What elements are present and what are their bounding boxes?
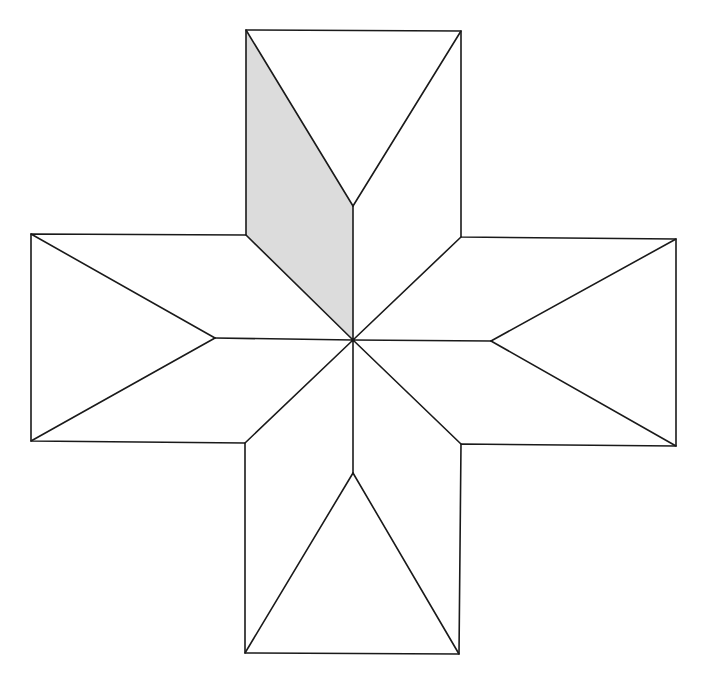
right-square-top-diagonal — [491, 239, 676, 341]
bottom-square-left-diagonal — [245, 473, 353, 653]
center-point — [351, 338, 355, 342]
diagonal-spoke-bottom-right — [353, 340, 461, 444]
bottom-square-right-diagonal — [353, 473, 459, 654]
top-square-right-diagonal — [353, 31, 461, 206]
shaded-layer — [246, 30, 353, 340]
left-square-top-diagonal — [31, 234, 215, 338]
diagram-svg — [0, 0, 701, 693]
right-square-bottom-diagonal — [491, 341, 676, 446]
shaded-rhombus-top-left — [246, 30, 353, 340]
left-square-bottom-diagonal — [31, 338, 215, 441]
cross-star-diagram — [0, 0, 701, 693]
diagonal-spoke-top-right — [353, 237, 461, 340]
left-horizontal-spoke — [215, 338, 353, 340]
diagonal-spoke-bottom-left — [245, 340, 353, 443]
segment-layer — [31, 30, 676, 654]
right-horizontal-spoke — [353, 340, 491, 341]
